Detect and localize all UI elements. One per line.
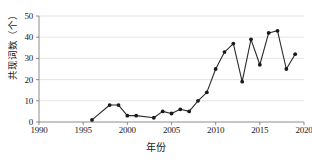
data-point bbox=[117, 103, 121, 107]
data-point bbox=[284, 67, 288, 71]
data-point bbox=[249, 37, 253, 41]
data-point bbox=[134, 114, 138, 118]
data-point bbox=[214, 67, 218, 71]
data-point bbox=[161, 110, 165, 114]
data-point bbox=[170, 112, 174, 116]
data-point bbox=[152, 116, 156, 120]
axis-lines bbox=[36, 16, 304, 125]
chart-canvas bbox=[0, 0, 312, 160]
data-point bbox=[231, 42, 235, 46]
x-axis-title: 年份 bbox=[0, 139, 312, 154]
data-point bbox=[267, 31, 271, 35]
data-point bbox=[90, 118, 94, 122]
gridlines bbox=[39, 16, 304, 122]
data-point bbox=[276, 29, 280, 33]
data-point bbox=[293, 52, 297, 56]
data-point bbox=[108, 103, 112, 107]
data-point bbox=[187, 110, 191, 114]
data-point bbox=[240, 80, 244, 84]
data-point bbox=[258, 63, 262, 67]
data-point bbox=[205, 90, 209, 94]
data-point bbox=[196, 99, 200, 103]
data-line-series-1 bbox=[92, 31, 295, 120]
data-point bbox=[178, 107, 182, 111]
line-chart: 共现词数（个） 0 10 20 30 40 50 1990 1995 2000 … bbox=[0, 0, 312, 160]
data-point bbox=[223, 50, 227, 54]
data-point bbox=[125, 114, 129, 118]
